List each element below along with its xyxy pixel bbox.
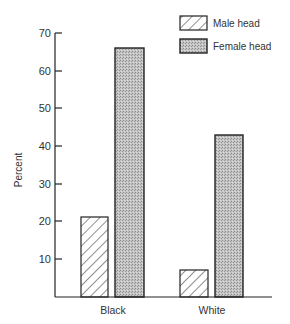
legend-item-female-head: Female head xyxy=(180,39,271,53)
hatch-swatch-icon xyxy=(180,16,207,30)
bars-black xyxy=(81,48,144,297)
y-tick-label: 70 xyxy=(39,27,51,39)
legend-label: Female head xyxy=(213,41,271,52)
y-tick-label: 40 xyxy=(39,140,51,152)
y-tick-label: 30 xyxy=(39,178,51,190)
y-tick-label: 10 xyxy=(39,253,51,265)
bars-white xyxy=(180,135,243,297)
y-axis: 70 60 50 40 30 20 10 xyxy=(39,27,62,297)
bar-white-female-head xyxy=(215,135,243,297)
y-tick-label: 50 xyxy=(39,102,51,114)
legend-item-male-head: Male head xyxy=(180,16,260,30)
y-tick-label: 20 xyxy=(39,215,51,227)
y-tick-label: 60 xyxy=(39,65,51,77)
x-category-label: White xyxy=(199,304,226,316)
stipple-swatch-icon xyxy=(180,39,207,53)
bar-chart: Male head Female head Percent 70 60 50 4… xyxy=(0,0,290,324)
legend-label: Male head xyxy=(213,18,260,29)
bar-black-female-head xyxy=(115,48,144,297)
bar-black-male-head xyxy=(81,217,108,297)
y-axis-label: Percent xyxy=(13,153,24,188)
bar-white-male-head xyxy=(180,270,208,297)
x-category-label: Black xyxy=(100,304,126,316)
legend: Male head Female head xyxy=(180,16,271,53)
